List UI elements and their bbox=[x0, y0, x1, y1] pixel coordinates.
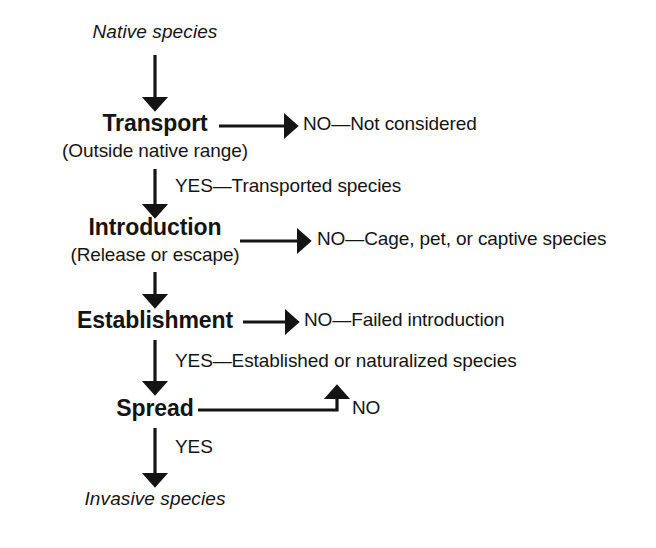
stage-sublabel-introduction: (Release or escape) bbox=[70, 245, 239, 265]
start-terminal-label: Native species bbox=[93, 22, 218, 42]
arrow-spread-no-feedback bbox=[198, 392, 337, 410]
edge-label-spread-yes: YES bbox=[175, 437, 213, 457]
stage-label-spread: Spread bbox=[116, 396, 193, 420]
stage-label-establishment: Establishment bbox=[77, 308, 233, 332]
branch-label-spread-no: NO bbox=[352, 398, 380, 418]
stage-sublabel-transport: (Outside native range) bbox=[62, 141, 248, 161]
flowchart-canvas: Native species Transport (Outside native… bbox=[0, 0, 656, 548]
edge-label-transport-yes: YES—Transported species bbox=[175, 176, 401, 196]
branch-label-establishment-no: NO—Failed introduction bbox=[304, 310, 505, 330]
branch-label-transport-no: NO—Not considered bbox=[303, 114, 477, 134]
flowchart-arrows bbox=[0, 0, 656, 548]
stage-label-introduction: Introduction bbox=[89, 215, 222, 239]
edge-label-establishment-yes: YES—Established or naturalized species bbox=[175, 351, 517, 371]
end-terminal-label: Invasive species bbox=[84, 489, 225, 509]
branch-label-introduction-no: NO—Cage, pet, or captive species bbox=[317, 229, 606, 249]
stage-label-transport: Transport bbox=[102, 111, 207, 135]
